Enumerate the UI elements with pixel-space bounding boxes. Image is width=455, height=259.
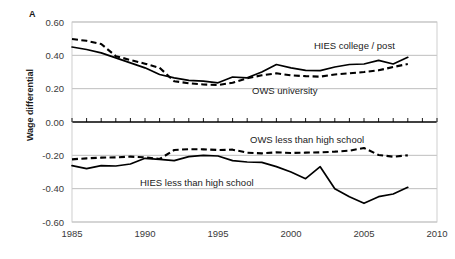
x-tick-label: 2000 [280,228,301,239]
y-tick-labels-group: 0.600.400.200.00-0.20-0.40-0.60 [42,17,64,228]
y-tick-label: 0.40 [46,50,65,61]
series-line-2 [72,148,408,159]
y-tick-label: -0.60 [42,217,64,228]
annotation-hies-less-than-high-school: HIES less than high school [140,177,254,188]
x-tick-label: 1990 [134,228,155,239]
chart-figure: A Wage differential 0.600.400.200.00-0.2… [0,0,455,259]
line-chart-svg: 0.600.400.200.00-0.20-0.40-0.60 19851990… [0,0,455,259]
y-tick-label: 0.60 [46,17,65,28]
x-tick-label: 2010 [426,228,447,239]
y-tick-label: 0.20 [46,83,65,94]
x-tick-label: 2005 [353,228,374,239]
y-tick-label: -0.20 [42,150,64,161]
x-tick-labels-group: 198519901995200020052010 [61,228,447,239]
series-line-0 [72,47,408,83]
annotation-ows-university: OWS university [252,85,318,96]
x-tick-label: 1985 [61,228,82,239]
y-tick-label: -0.40 [42,183,64,194]
x-tick-label: 1995 [207,228,228,239]
y-tick-label: 0.00 [46,117,65,128]
annotation-hies-college: HIES college / post [314,40,395,51]
annotation-ows-less-than-high-school: OWS less than high school [250,134,364,145]
gridlines-group [72,22,437,222]
